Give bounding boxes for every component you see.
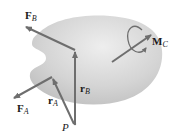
point-p — [74, 123, 76, 125]
label-position-b: rB — [80, 83, 90, 96]
label-force-b: FB — [25, 10, 37, 23]
rigid-body — [30, 16, 162, 105]
label-point-p: P — [62, 122, 69, 133]
label-force-a: FA — [17, 103, 29, 116]
label-moment-c: MC — [152, 36, 168, 49]
label-position-a: rA — [48, 95, 58, 108]
